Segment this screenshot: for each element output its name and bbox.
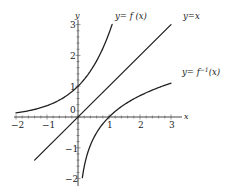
y-tick-label: 1 [70,82,76,92]
curve-identity-line [35,25,171,161]
axes [14,20,182,186]
curve-f-exponential [16,24,112,112]
x-tick-label: 2 [138,120,144,130]
y-tick-label: 3 [70,20,76,30]
curve-identity-label: y=x [182,11,200,21]
x-tick-label: −2 [11,120,24,130]
x-axis-label: x [184,112,189,121]
y-tick-label: 2 [70,51,76,61]
curve-finv-label-sup: −1 [200,66,209,73]
curve-f-label: y= f (x) [114,11,147,21]
x-tick-label: 1 [107,120,113,130]
y-tick-label: −1 [65,144,78,154]
x-tick-label: 3 [169,120,175,130]
curve-f-inverse-log [82,83,171,177]
curves [16,24,171,177]
y-axis-label: y [74,11,80,20]
y-tick-label: −2 [65,174,78,184]
origin-label: 0 [70,105,76,115]
curve-finv-label: y= f−1(x) [181,66,220,77]
curve-finv-label-main: y= f [181,67,202,77]
curve-finv-label-arg: (x) [209,67,220,77]
function-inverse-plot: y x 0 −2 −1 1 2 3 3 2 1 −1 −2 y= f (x) y… [0,0,226,192]
x-tick-label: −1 [42,120,55,130]
